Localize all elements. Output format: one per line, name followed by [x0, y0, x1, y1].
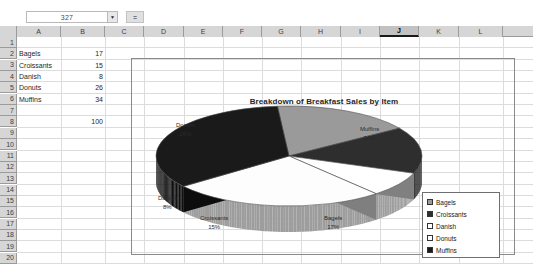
column-header-a[interactable]: A	[17, 26, 61, 37]
legend-swatch-icon	[427, 199, 433, 205]
column-header-g[interactable]: G	[262, 26, 301, 37]
pie-slice-side	[418, 167, 419, 194]
spreadsheet-grid[interactable]: ABCDEFGHIJKL 123456789101112131415161718…	[0, 26, 533, 264]
legend-label: Donuts	[436, 235, 457, 242]
row-header-20[interactable]: 20	[0, 253, 17, 264]
legend-swatch-icon	[427, 235, 433, 241]
data-label-percent: 17%	[324, 223, 342, 232]
row-header-16[interactable]: 16	[0, 207, 17, 218]
cell-B8[interactable]: 100	[61, 116, 105, 127]
cell-B4[interactable]: 8	[61, 71, 105, 82]
pie-slice-side	[283, 206, 286, 232]
row-header-9[interactable]: 9	[0, 128, 17, 139]
row-header-11[interactable]: 11	[0, 151, 17, 162]
row-header-2[interactable]: 2	[0, 48, 17, 59]
column-header-c[interactable]: C	[105, 26, 144, 37]
cell-B5[interactable]: 26	[61, 82, 105, 93]
pie-slice-side	[160, 169, 161, 196]
pie-slice-side	[310, 205, 313, 231]
cell-A6[interactable]: Muffins	[17, 94, 61, 105]
column-header-b[interactable]: B	[61, 26, 105, 37]
data-label-donuts: Donuts26%	[176, 121, 195, 138]
pie-slice-side	[317, 205, 320, 231]
column-header-j[interactable]: J	[380, 26, 419, 37]
data-label-danish: Danish8%	[158, 194, 177, 211]
pie-slice-side	[249, 204, 252, 230]
row-header-8[interactable]: 8	[0, 116, 17, 127]
pie-slice-side	[254, 204, 257, 230]
row-header-14[interactable]: 14	[0, 185, 17, 196]
row-header-3[interactable]: 3	[0, 60, 17, 71]
data-label-percent: 34%	[360, 134, 379, 143]
row-header-10[interactable]: 10	[0, 139, 17, 150]
legend-item-muffins[interactable]: Muffins	[427, 244, 495, 256]
chart-object[interactable]: Breakdown of Breakfast Sales by Item Don…	[131, 58, 515, 255]
column-header-l[interactable]: L	[459, 26, 503, 37]
row-header-19[interactable]: 19	[0, 241, 17, 252]
column-header-h[interactable]: H	[301, 26, 341, 37]
legend-item-danish[interactable]: Danish	[427, 220, 495, 232]
pie-slice-side	[262, 205, 265, 231]
chart-legend[interactable]: BagelsCroissantsDanishDonutsMuffins	[422, 192, 500, 258]
cell-B3[interactable]: 15	[61, 60, 105, 71]
pie-slice-side	[296, 206, 299, 232]
row-header-17[interactable]: 17	[0, 219, 17, 230]
pie-slice-side	[291, 206, 294, 232]
pie-slice-side	[315, 205, 318, 231]
cell-A3[interactable]: Croissants	[17, 60, 61, 71]
row-header-13[interactable]: 13	[0, 173, 17, 184]
cell-A2[interactable]: Bagels	[17, 48, 61, 59]
pie-slice-side	[232, 201, 234, 227]
pie-slice-side	[229, 201, 231, 227]
cell-A4[interactable]: Danish	[17, 71, 61, 82]
cell-B6[interactable]: 34	[61, 94, 105, 105]
row-header-4[interactable]: 4	[0, 71, 17, 82]
pie-slice-side	[237, 202, 239, 228]
cell-A5[interactable]: Donuts	[17, 82, 61, 93]
pie-slice-side	[272, 206, 275, 232]
formula-input[interactable]	[144, 11, 533, 23]
pie-slice-side	[159, 167, 160, 194]
row-header-7[interactable]: 7	[0, 105, 17, 116]
pie-slice-side	[239, 202, 241, 228]
legend-label: Danish	[436, 223, 456, 230]
column-header-d[interactable]: D	[144, 26, 184, 37]
data-label-name: Donuts	[176, 121, 195, 130]
column-header-i[interactable]: I	[341, 26, 380, 37]
pie-slice-side	[160, 168, 161, 195]
cell-B2[interactable]: 17	[61, 48, 105, 59]
legend-item-croissants[interactable]: Croissants	[427, 208, 495, 220]
legend-swatch-icon	[427, 211, 433, 217]
chevron-down-icon[interactable]: ▼	[108, 11, 118, 23]
row-header-18[interactable]: 18	[0, 230, 17, 241]
pie-top-faces	[156, 106, 422, 206]
select-all-corner[interactable]	[0, 26, 17, 37]
pie-slice-side	[418, 166, 419, 193]
equals-glyph: =	[133, 14, 137, 21]
column-header-k[interactable]: K	[419, 26, 459, 37]
pie-slice-side	[415, 171, 416, 198]
data-label-percent: 15%	[200, 223, 228, 232]
pie-slice-side	[377, 193, 379, 220]
row-header-5[interactable]: 5	[0, 82, 17, 93]
row-header-12[interactable]: 12	[0, 162, 17, 173]
pie-slice-side	[307, 205, 310, 231]
data-label-name: Danish	[158, 194, 177, 203]
row-header-6[interactable]: 6	[0, 94, 17, 105]
pie-slice-side	[275, 206, 278, 232]
pie-slice-side	[270, 205, 273, 231]
equals-icon[interactable]: =	[126, 11, 144, 23]
pie-slice-side	[267, 205, 270, 231]
legend-item-donuts[interactable]: Donuts	[427, 232, 495, 244]
legend-item-bagels[interactable]: Bagels	[427, 196, 495, 208]
name-box[interactable]: 327	[26, 11, 108, 23]
data-label-name: Croissants	[200, 214, 228, 223]
row-header-1[interactable]: 1	[0, 37, 17, 48]
pie-slice-side	[419, 165, 420, 192]
pie-slice-side	[247, 203, 250, 229]
column-header-f[interactable]: F	[223, 26, 262, 37]
pie-slice-side	[379, 192, 381, 219]
column-header-e[interactable]: E	[184, 26, 223, 37]
row-header-15[interactable]: 15	[0, 196, 17, 207]
pie-slice-side	[278, 206, 281, 232]
